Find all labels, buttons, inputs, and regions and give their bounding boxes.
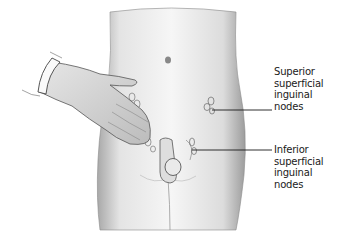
inguinal-palpation-illustration [0, 0, 342, 237]
label-line: Inferior [274, 144, 323, 156]
label-line: superficial [274, 78, 323, 90]
inferior-nodes-label: Inferior superficial inguinal nodes [274, 144, 323, 190]
navel [165, 57, 171, 64]
label-line: inguinal [274, 89, 323, 101]
label-line: superficial [274, 156, 323, 168]
label-line: nodes [274, 179, 323, 191]
label-line: Superior [274, 66, 323, 78]
label-line: nodes [274, 101, 323, 113]
superior-nodes-label: Superior superficial inguinal nodes [274, 66, 323, 112]
label-line: inguinal [274, 167, 323, 179]
